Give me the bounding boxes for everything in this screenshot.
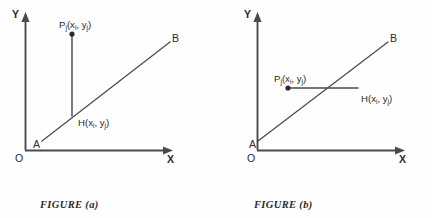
- point-h-label-close-b: ): [389, 93, 392, 104]
- point-h-label-mid-a: , y: [94, 117, 104, 128]
- ray-start-label-b: A: [249, 139, 256, 150]
- figure-panel-a: Y X O A B Pj(xi, yj) H(xi, yj) FIGURE (a…: [0, 0, 216, 218]
- point-p-dot-b: [285, 85, 290, 90]
- point-p-label-sub-a: j: [65, 24, 66, 31]
- point-p-label-args-b: (x: [282, 73, 290, 84]
- point-p-label-close-a: ): [88, 19, 91, 30]
- figure-a-graphic: [0, 0, 216, 186]
- point-p-label-b: Pj(xi, yj): [274, 74, 306, 84]
- point-h-label-args-b: (x: [368, 93, 376, 104]
- point-p-label-mid-b: , y: [291, 73, 301, 84]
- point-p-label-sub3-b: j: [301, 78, 302, 85]
- point-h-label-sub3-b: j: [388, 98, 389, 105]
- point-h-label-main-b: H: [361, 93, 368, 104]
- point-p-label-mid-a: , y: [76, 19, 86, 30]
- point-p-label-args-a: (x: [67, 19, 75, 30]
- figure-panel-b: Y X O A B Pj(xi, yj) H(xi, yj) FIGURE (b…: [216, 0, 432, 218]
- x-axis-label-a: X: [167, 154, 174, 165]
- figure-caption-b: FIGURE (b): [254, 200, 313, 211]
- origin-label-b: O: [247, 153, 255, 164]
- origin-label-a: O: [15, 153, 23, 164]
- y-axis-arrow-icon-a: [21, 12, 29, 22]
- ray-ab-b: [258, 42, 388, 141]
- point-h-label-b: H(xi, yj): [361, 94, 392, 104]
- ray-start-label-a: A: [33, 139, 40, 150]
- point-p-dot-a: [69, 31, 74, 36]
- ray-end-label-b: B: [390, 33, 397, 44]
- y-axis-label-b: Y: [244, 9, 251, 20]
- point-h-label-a: H(xi, yj): [78, 118, 109, 128]
- point-h-label-mid-b: , y: [377, 93, 387, 104]
- point-h-label-close-a: ): [106, 117, 109, 128]
- y-axis-arrow-icon-b: [253, 12, 261, 22]
- x-axis-label-b: X: [399, 154, 406, 165]
- y-axis-label-a: Y: [12, 9, 19, 20]
- point-p-label-close-b: ): [303, 73, 306, 84]
- point-h-label-args-a: (x: [85, 117, 93, 128]
- point-p-label-a: Pj(xi, yj): [59, 20, 91, 30]
- point-h-label-sub3-a: j: [105, 122, 106, 129]
- point-p-label-sub-b: j: [280, 78, 281, 85]
- point-p-label-sub3-a: j: [86, 24, 87, 31]
- figure-caption-a: FIGURE (a): [40, 200, 99, 211]
- point-h-label-main-a: H: [78, 117, 85, 128]
- figure-sheet: Y X O A B Pj(xi, yj) H(xi, yj) FIGURE (a…: [0, 0, 432, 218]
- ray-end-label-a: B: [172, 33, 179, 44]
